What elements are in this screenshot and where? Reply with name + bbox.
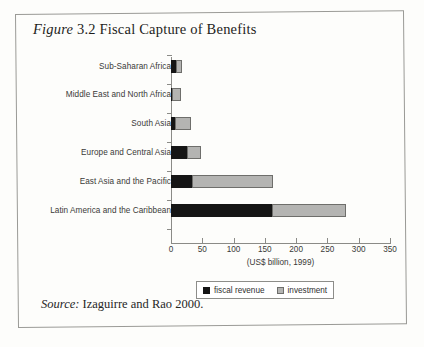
x-axis-tick-label: 50 [198,245,207,254]
y-axis-tick [167,200,172,201]
figure-title-text: Fiscal Capture of Benefits [100,21,257,37]
bar-segment-investment [187,146,201,159]
bar-segment-investment [272,204,346,217]
x-axis-tick-label: 350 [383,245,397,254]
x-axis-tick [202,238,203,244]
legend-swatch-investment [277,287,284,294]
bar-chart: Sub-Saharan AfricaMiddle East and North … [0,55,424,295]
y-axis-tick [167,113,172,114]
figure-label: Figure [33,21,73,37]
figure-content: Figure 3.2 Fiscal Capture of Benefits Su… [0,0,424,347]
y-axis-tick [167,84,172,85]
bar-segment-investment [176,60,182,73]
x-axis-tick [296,238,297,244]
x-axis-tick-label: 300 [352,245,366,254]
legend-label: investment [288,286,328,295]
y-axis-tick [167,229,172,230]
x-axis-tick-label: 150 [258,245,272,254]
bar-row [171,146,390,159]
y-axis-tick [167,55,172,56]
legend-item: fiscal revenue [203,286,265,295]
x-axis-tick [327,238,328,244]
y-axis-label: Latin America and the Caribbean [50,206,171,215]
x-axis-title: (US$ billion, 1999) [171,258,390,267]
x-axis-tick [171,238,172,244]
legend-swatch-revenue [203,287,210,294]
x-axis-tick-label: 100 [227,245,241,254]
bar-row [171,117,390,130]
bar-row [171,204,390,217]
source-note: Source: Izaguirre and Rao 2000. [41,297,203,312]
bar-row [171,60,390,73]
y-axis-label: East Asia and the Pacific [80,177,171,186]
y-axis-label: Europe and Central Asia [81,148,171,157]
source-text: Izaguirre and Rao 2000. [83,297,204,311]
bar-segment-revenue [171,175,192,188]
bar-row [171,88,390,101]
source-label: Source: [41,297,79,311]
legend-item: investment [277,286,328,295]
y-axis-label: Sub-Saharan Africa [99,62,171,71]
y-axis-tick [167,142,172,143]
x-axis-tick-label: 250 [321,245,335,254]
x-axis-tick-label: 0 [169,245,174,254]
bar-segment-investment [175,117,191,130]
x-axis-line [171,243,390,244]
x-axis-tick [359,238,360,244]
y-axis-label: Middle East and North Africa [66,90,171,99]
x-axis-tick [234,238,235,244]
x-axis-tick-label: 200 [289,245,303,254]
figure-number: 3.2 [77,21,96,37]
bar-segment-revenue [171,146,187,159]
figure-title: Figure 3.2 Fiscal Capture of Benefits [33,21,257,38]
bar-segment-investment [172,88,181,101]
bar-segment-revenue [171,204,272,217]
bar-row [171,175,390,188]
x-axis-tick [265,238,266,244]
y-axis-tick [167,171,172,172]
bar-segment-investment [192,175,273,188]
scanned-page: Figure 3.2 Fiscal Capture of Benefits Su… [0,0,424,347]
legend-label: fiscal revenue [214,286,265,295]
y-axis-label: South Asia [131,119,171,128]
chart-legend: fiscal revenueinvestment [196,281,334,299]
x-axis-tick [390,238,391,244]
